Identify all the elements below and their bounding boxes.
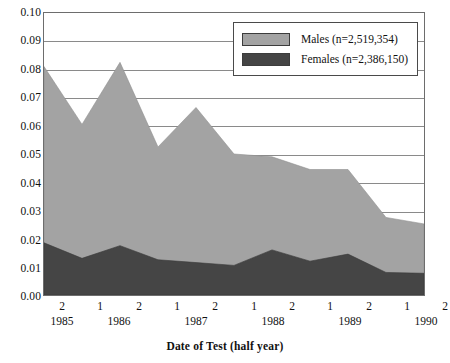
legend-row-females: Females (n=2,386,150) [242,49,408,69]
x-year-1989: 1989 [323,315,377,327]
chart-legend: Males (n=2,519,354) Females (n=2,386,150… [233,22,418,76]
y-tick-0.00: 0.00 [5,291,41,303]
x-year-1986: 1986 [92,315,146,327]
y-axis: 0.10 0.09 0.08 0.07 0.06 0.05 0.04 0.03 … [0,0,41,308]
x-half-tick-3: 1 [165,300,189,312]
y-tick-0.02: 0.02 [5,235,41,247]
legend-label-males: Males (n=2,519,354) [301,33,398,45]
x-half-tick-1: 1 [88,300,112,312]
y-tick-0.06: 0.06 [5,121,41,133]
y-tick-0.08: 0.08 [5,64,41,76]
y-tick-0.01: 0.01 [5,263,41,275]
y-tick-0.03: 0.03 [5,206,41,218]
y-tick-0.07: 0.07 [5,92,41,104]
x-half-tick-4: 2 [203,300,227,312]
y-tick-0.04: 0.04 [5,178,41,190]
legend-label-females: Females (n=2,386,150) [301,53,408,65]
x-year-1990: 1990 [399,315,450,327]
x-half-tick-8: 2 [357,300,381,312]
x-half-tick-9: 1 [395,300,419,312]
x-year-1987: 1987 [169,315,223,327]
legend-swatch-females [242,53,290,66]
x-year-1988: 1988 [246,315,300,327]
x-half-tick-10: 2 [433,300,450,312]
x-half-tick-7: 1 [318,300,342,312]
x-axis-title: Date of Test (half year) [0,340,450,352]
x-axis: 2 1 2 1 2 1 2 1 2 1 2 1985 1986 1987 198… [43,297,425,343]
legend-row-males: Males (n=2,519,354) [242,29,408,49]
y-tick-0.05: 0.05 [5,149,41,161]
x-year-1985: 1985 [35,315,89,327]
x-half-tick-5: 1 [242,300,266,312]
legend-swatch-males [242,33,290,46]
y-tick-0.09: 0.09 [5,35,41,47]
chart-figure: 0.10 0.09 0.08 0.07 0.06 0.05 0.04 0.03 … [0,0,450,363]
x-half-tick-6: 2 [280,300,304,312]
x-half-tick-0: 2 [50,300,74,312]
y-tick-0.10: 0.10 [5,7,41,19]
x-half-tick-2: 2 [127,300,151,312]
